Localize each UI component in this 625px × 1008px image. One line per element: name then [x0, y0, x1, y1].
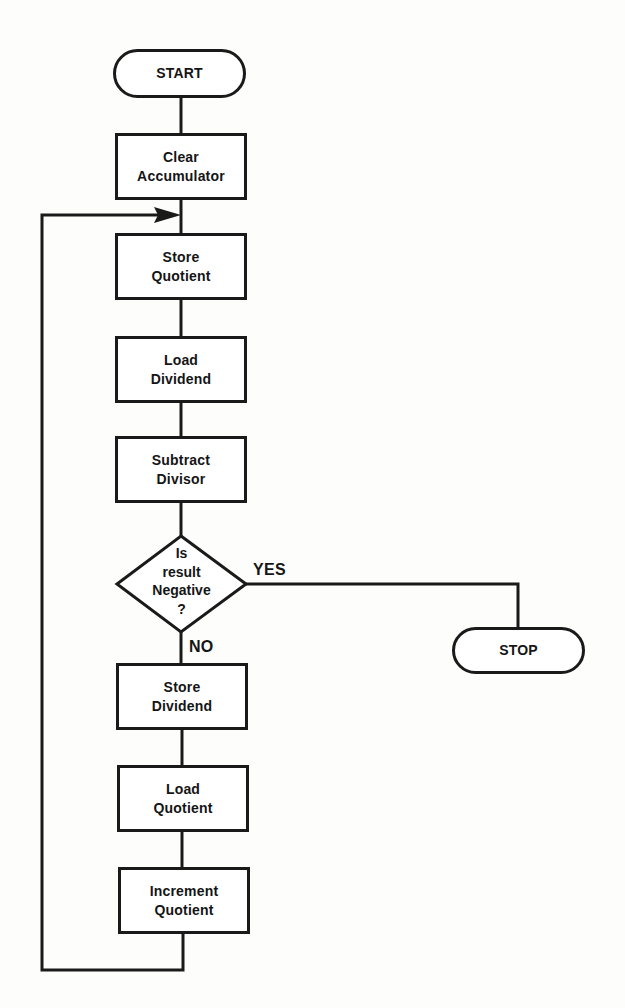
load-quotient-box: Load Quotient — [117, 765, 249, 832]
increment-quotient-line1: Increment — [150, 882, 219, 901]
increment-quotient-line2: Quotient — [154, 901, 213, 920]
increment-quotient-box: Increment Quotient — [118, 867, 250, 934]
load-dividend-box: Load Dividend — [115, 336, 247, 403]
store-quotient-line1: Store — [163, 248, 200, 267]
decision-line2: result — [117, 563, 246, 582]
arrowhead-icon — [154, 207, 181, 223]
yes-label: YES — [253, 561, 286, 579]
load-dividend-line2: Dividend — [151, 370, 212, 389]
store-dividend-box: Store Dividend — [116, 663, 248, 730]
no-label: NO — [189, 638, 214, 656]
store-dividend-line1: Store — [164, 678, 201, 697]
store-dividend-line2: Dividend — [152, 697, 213, 716]
store-quotient-box: Store Quotient — [115, 233, 247, 300]
stop-terminator: STOP — [452, 627, 585, 674]
clear-accumulator-box: Clear Accumulator — [115, 133, 247, 200]
division-flowchart: START Clear Accumulator Store Quotient L… — [0, 0, 625, 1008]
start-terminator: START — [113, 49, 246, 98]
connector-decision-yes — [246, 584, 518, 627]
subtract-divisor-line2: Divisor — [157, 470, 206, 489]
decision-line3: Negative — [117, 581, 246, 600]
load-quotient-line2: Quotient — [153, 799, 212, 818]
clear-accumulator-line1: Clear — [163, 148, 199, 167]
subtract-divisor-line1: Subtract — [152, 451, 210, 470]
store-quotient-line2: Quotient — [151, 267, 210, 286]
decision-line4: ? — [117, 600, 246, 619]
start-label: START — [156, 64, 203, 83]
stop-label: STOP — [499, 641, 538, 660]
flowchart-connectors — [0, 0, 625, 1008]
subtract-divisor-box: Subtract Divisor — [115, 436, 247, 503]
decision-line1: Is — [117, 544, 246, 563]
load-quotient-line1: Load — [166, 780, 200, 799]
load-dividend-line1: Load — [164, 351, 198, 370]
decision-label: Is result Negative ? — [117, 544, 246, 618]
clear-accumulator-line2: Accumulator — [137, 167, 225, 186]
